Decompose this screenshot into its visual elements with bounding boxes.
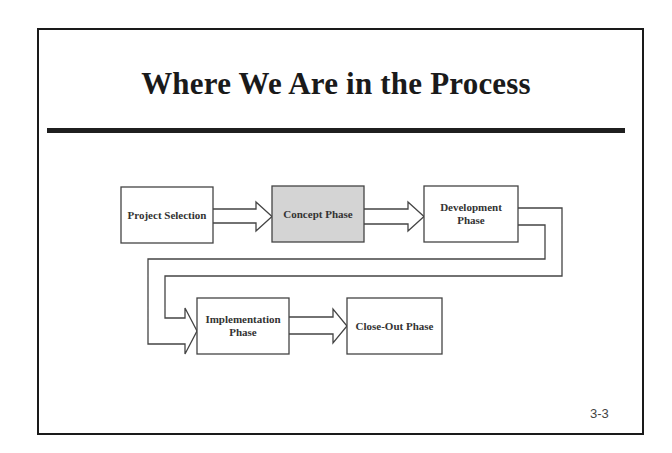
node-box-implementation — [197, 298, 289, 354]
arrow-implementation-to-close-out — [289, 309, 347, 343]
arrow-concept-to-development — [364, 202, 424, 231]
node-box-project-selection — [121, 187, 213, 243]
arrow-project-selection-to-concept — [213, 202, 272, 231]
node-box-close-out — [347, 298, 442, 354]
process-flow-diagram — [0, 0, 672, 453]
node-box-development — [424, 186, 518, 242]
page-number: 3-3 — [590, 406, 609, 421]
node-box-concept — [272, 186, 364, 242]
